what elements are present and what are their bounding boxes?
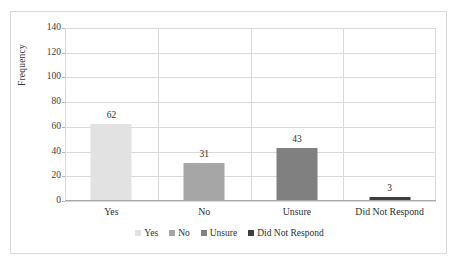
- legend-item[interactable]: Did Not Respond: [248, 228, 324, 238]
- chart-frame: Frequency 020406080100120140 6231433 Yes…: [10, 11, 447, 254]
- y-axis-tick-label: 60: [31, 122, 61, 132]
- y-axis-tick-label: 20: [31, 172, 61, 182]
- y-axis-tick-label: 0: [31, 196, 61, 206]
- gridline-horizontal: [65, 201, 436, 202]
- plot-area: 6231433: [65, 28, 436, 201]
- y-axis-tick-label: 140: [31, 23, 61, 33]
- bar-column: 62: [65, 28, 158, 201]
- y-axis-tick-label: 40: [31, 147, 61, 157]
- x-axis-labels: YesNoUnsureDid Not Respond: [65, 206, 436, 222]
- x-axis-category-label: Unsure: [283, 206, 311, 217]
- legend-label: Did Not Respond: [257, 228, 324, 238]
- y-axis-tick-label: 80: [31, 97, 61, 107]
- bar: [91, 124, 132, 201]
- x-axis-category-label: Yes: [104, 206, 118, 217]
- bar-column: 3: [343, 28, 436, 201]
- legend-swatch-icon: [169, 230, 175, 236]
- x-axis-category-label: Did Not Respond: [355, 206, 424, 217]
- y-axis-tick-label: 120: [31, 48, 61, 58]
- chart-legend: YesNoUnsureDid Not Respond: [11, 228, 448, 238]
- y-axis-tick-label: 100: [31, 73, 61, 83]
- bar-value-label: 31: [199, 149, 209, 159]
- legend-label: Unsure: [210, 228, 237, 238]
- x-axis-category-label: No: [198, 206, 210, 217]
- bar-value-label: 62: [107, 110, 117, 120]
- bar: [276, 148, 317, 201]
- legend-item[interactable]: Yes: [135, 228, 158, 238]
- legend-label: Yes: [144, 228, 158, 238]
- legend-label: No: [178, 228, 190, 238]
- bar: [184, 163, 225, 201]
- legend-swatch-icon: [201, 230, 207, 236]
- bar-value-label: 3: [387, 183, 392, 193]
- bar-column: 31: [158, 28, 251, 201]
- legend-item[interactable]: Unsure: [201, 228, 237, 238]
- bar-value-label: 43: [292, 134, 302, 144]
- legend-swatch-icon: [135, 230, 141, 236]
- x-axis-line: [65, 200, 436, 201]
- y-axis-ticks: 020406080100120140: [27, 28, 61, 201]
- legend-item[interactable]: No: [169, 228, 190, 238]
- bar-column: 43: [251, 28, 344, 201]
- legend-swatch-icon: [248, 230, 254, 236]
- y-axis-title: Frequency: [17, 44, 27, 86]
